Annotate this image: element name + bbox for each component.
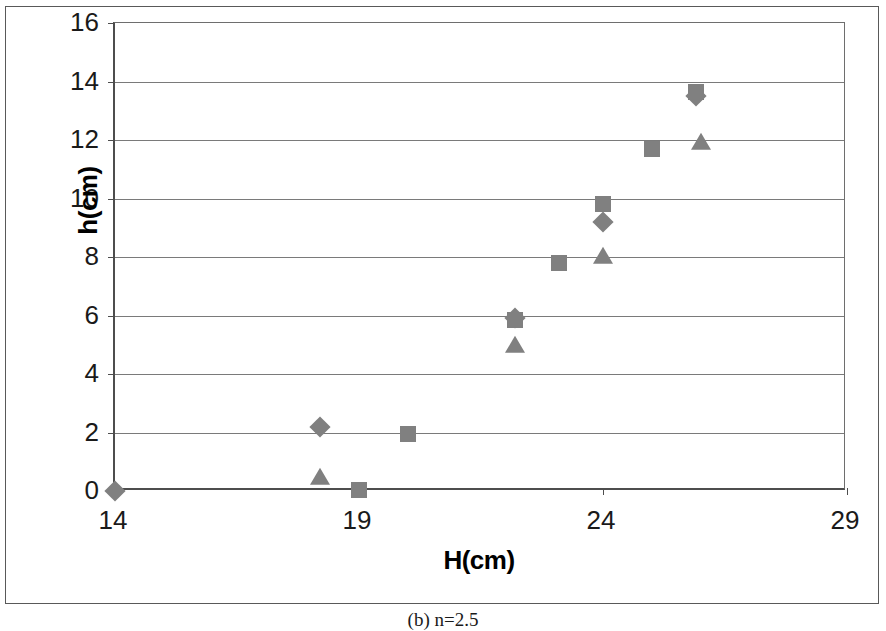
y-tick-mark — [108, 374, 115, 375]
y-tick-label: 16 — [70, 9, 99, 35]
gridline — [115, 199, 844, 200]
y-tick-label: 0 — [85, 477, 99, 503]
y-tick-mark — [108, 257, 115, 258]
figure-caption: (b) n=2.5 — [0, 609, 886, 631]
data-point-square — [644, 141, 660, 157]
y-tick-mark — [108, 140, 115, 141]
data-point-diamond — [309, 416, 330, 437]
x-tick-label: 14 — [99, 507, 128, 533]
data-point-square — [400, 426, 416, 442]
plot-area — [113, 22, 845, 490]
gridline — [115, 140, 844, 141]
y-tick-label: 14 — [70, 68, 99, 94]
x-tick-label: 24 — [587, 507, 616, 533]
x-tick-label: 29 — [831, 507, 860, 533]
data-point-square — [551, 255, 567, 271]
y-tick-mark — [108, 199, 115, 200]
x-tick-label: 19 — [343, 507, 372, 533]
x-axis-title: H(cm) — [113, 545, 845, 576]
gridline — [115, 316, 844, 317]
y-tick-mark — [108, 82, 115, 83]
data-point-square — [507, 312, 523, 328]
y-tick-mark — [108, 316, 115, 317]
data-point-square — [351, 482, 367, 498]
x-tick-mark — [847, 488, 848, 495]
y-tick-label: 4 — [85, 360, 99, 386]
y-tick-label: 2 — [85, 419, 99, 445]
y-tick-mark — [108, 433, 115, 434]
data-point-triangle — [310, 468, 330, 485]
y-tick-mark — [108, 23, 115, 24]
gridline — [115, 433, 844, 434]
data-point-triangle — [505, 336, 525, 353]
y-axis-title: h(cm) — [73, 121, 104, 281]
data-point-square — [688, 84, 704, 100]
gridline — [115, 374, 844, 375]
data-point-triangle — [691, 133, 711, 150]
gridline — [115, 257, 844, 258]
data-point-square — [595, 196, 611, 212]
gridline — [115, 82, 844, 83]
data-point-diamond — [592, 211, 613, 232]
data-point-triangle — [593, 247, 613, 264]
y-tick-label: 6 — [85, 302, 99, 328]
data-point-diamond — [104, 480, 125, 501]
x-tick-mark — [603, 488, 604, 495]
